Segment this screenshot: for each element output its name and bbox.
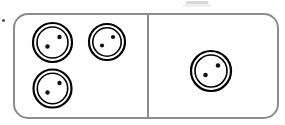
right-panel [191,51,231,91]
token-pip-icon [45,90,49,94]
token-inner-ring-icon [37,73,67,103]
stray-dot-left-margin-icon [2,19,5,22]
token-inner-ring-icon [195,55,227,87]
token-left-bottom-left [34,70,72,108]
token-inner-ring-icon [93,28,121,56]
clipped-bar-top-icon [186,1,208,4]
token-left-top-left [33,23,72,62]
token-inner-ring-icon [37,27,68,58]
top-clipped-artifacts [183,1,211,7]
token-right-center [191,51,231,91]
clipped-bar-top-faint-icon [183,4,211,7]
figure-canvas [0,0,285,125]
token-pip-icon [216,63,221,68]
token-pip-icon [45,44,49,48]
token-left-top-right [89,24,125,60]
token-pip-icon [100,43,104,47]
domino-token-diagram [0,0,285,125]
token-pip-icon [111,35,115,39]
token-pip-icon [57,35,61,39]
token-pip-icon [57,81,61,85]
token-pip-icon [203,73,208,78]
